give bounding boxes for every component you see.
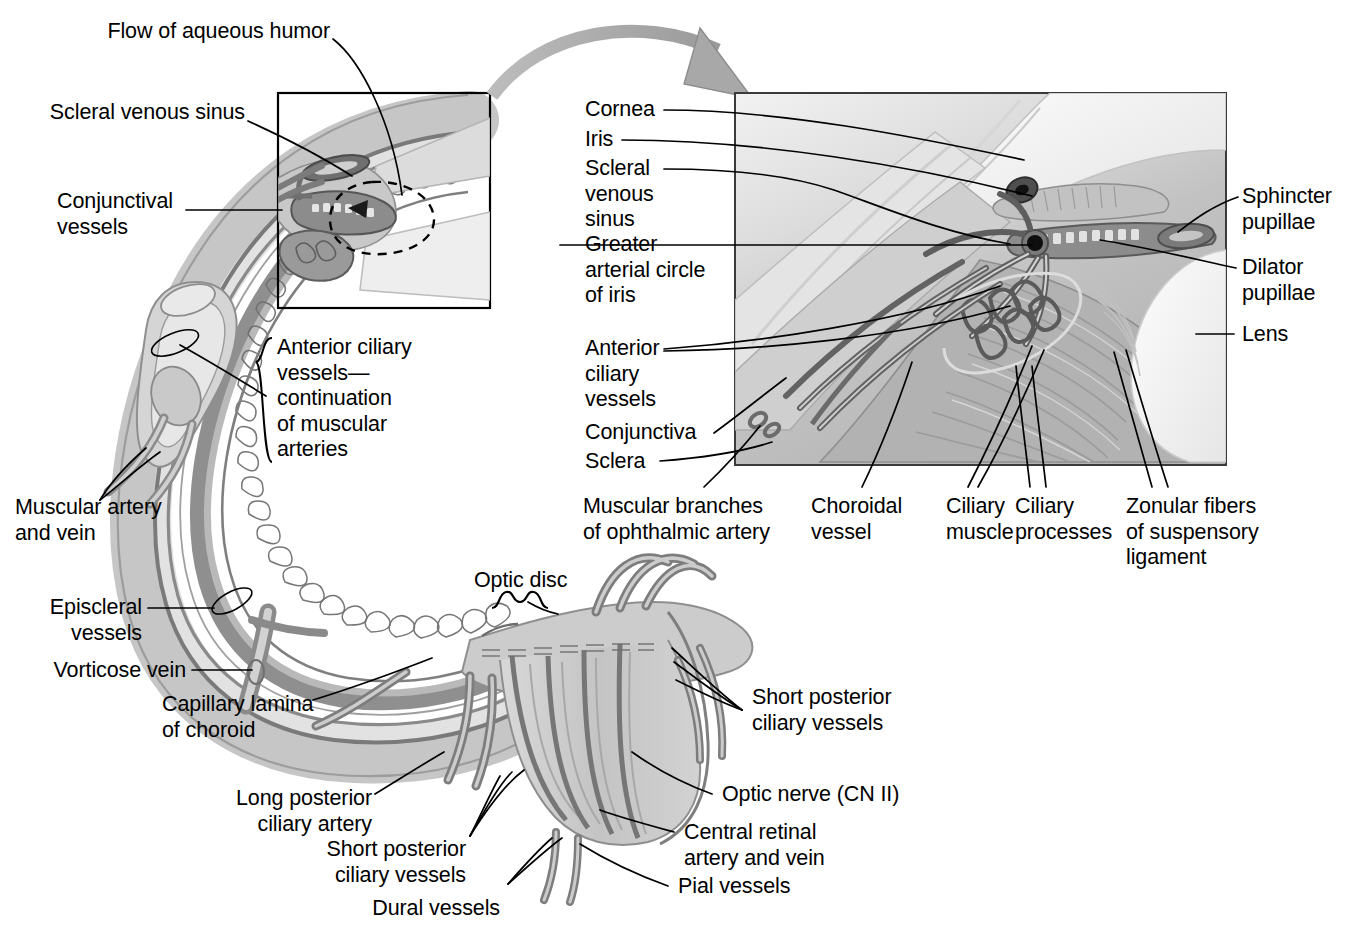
figure-canvas: Flow of aqueous humor Scleral venous sin…	[0, 0, 1347, 936]
label-ciliary-processes: Ciliary processes	[1015, 494, 1112, 545]
label-conjunctival-vessels: Conjunctival vessels	[57, 189, 173, 240]
greater-arterial-circle-structure	[1022, 230, 1048, 256]
detail-panel	[735, 93, 1226, 465]
label-flow-of-aqueous-humor: Flow of aqueous humor	[0, 19, 330, 45]
anterior-ciliary-loop-marker	[148, 324, 202, 361]
label-lens: Lens	[1242, 322, 1288, 348]
episcleral-loop-marker	[208, 583, 255, 620]
label-sphincter-pupillae: Sphincter pupillae	[1242, 184, 1332, 235]
label-pial-vessels: Pial vessels	[678, 874, 790, 900]
label-ciliary-muscle: Ciliary muscle	[946, 494, 1014, 545]
label-greater-arterial-circle-of-iris: Greater arterial circle of iris	[585, 232, 705, 309]
ciliary-processes-structure	[962, 281, 1060, 358]
label-anterior-ciliary-vessels-detail: Anterior ciliary vessels	[585, 336, 659, 413]
leader-lines	[100, 39, 1238, 886]
label-short-posterior-ciliary-vessels-right: Short posterior ciliary vessels	[752, 685, 892, 736]
magnify-arrow	[492, 28, 752, 98]
label-cornea: Cornea	[585, 97, 655, 123]
label-scleral-venous-sinus: Scleral venous sinus	[0, 100, 245, 126]
label-anterior-ciliary-vessels-continuation: Anterior ciliary vessels— continuation o…	[277, 335, 412, 463]
label-zonular-fibers-of-suspensory-ligament: Zonular fibers of suspensory ligament	[1126, 494, 1259, 571]
label-muscular-branches-of-ophthalmic-artery: Muscular branches of ophthalmic artery	[583, 494, 770, 545]
sphincter-pupillae-structure	[1157, 221, 1215, 251]
label-long-posterior-ciliary-artery: Long posterior ciliary artery	[160, 786, 372, 837]
label-iris: Iris	[585, 127, 613, 153]
label-optic-disc: Optic disc	[474, 568, 567, 594]
label-muscular-artery-and-vein: Muscular artery and vein	[15, 495, 162, 546]
inset-region-box	[278, 93, 490, 308]
label-choroidal-vessel: Choroidal vessel	[811, 494, 902, 545]
label-episcleral-vessels: Episcleral vessels	[0, 595, 142, 646]
label-central-retinal-artery-and-vein: Central retinal artery and vein	[684, 820, 825, 871]
label-sclera: Sclera	[585, 449, 645, 475]
anterior-ciliary-brace	[256, 338, 272, 462]
label-dilator-pupillae: Dilator pupillae	[1242, 255, 1315, 306]
label-short-posterior-ciliary-vessels-left: Short posterior ciliary vessels	[230, 837, 466, 888]
label-vorticose-vein: Vorticose vein	[0, 658, 186, 684]
label-scleral-venous-sinus-detail: Scleral venous sinus	[585, 156, 654, 233]
label-optic-nerve: Optic nerve (CN II)	[722, 782, 899, 808]
label-conjunctiva: Conjunctiva	[585, 420, 696, 446]
scleral-venous-sinus-structure	[1003, 173, 1042, 207]
label-capillary-lamina-of-choroid: Capillary lamina of choroid	[162, 692, 313, 743]
anterior-cut-stump	[108, 278, 237, 504]
optic-disc-brace	[492, 592, 548, 608]
label-dural-vessels: Dural vessels	[300, 896, 500, 922]
